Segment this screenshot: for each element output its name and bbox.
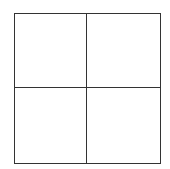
grid-cell-bottom-left: [14, 87, 87, 164]
two-by-two-grid: [14, 13, 161, 164]
grid-cell-top-left: [14, 13, 87, 88]
diagram-canvas: [0, 0, 170, 169]
grid-cell-top-right: [86, 13, 161, 88]
grid-cell-bottom-right: [86, 87, 161, 164]
